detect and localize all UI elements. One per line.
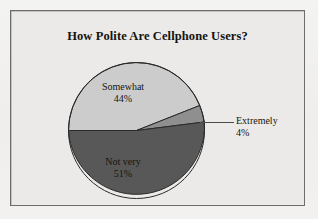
pie-label-somewhat-value: 44% [81,93,165,105]
pie-label-notvery-name: Not very [83,156,163,168]
pie-label-notvery: Not very 51% [83,156,163,180]
chart-image: How Polite Are Cellphone Users? Somewhat… [0,0,318,219]
pie-label-notvery-value: 51% [83,168,163,180]
pie-label-leader-line [200,122,234,123]
pie-label-extremely-name: Extremely [236,115,310,127]
pie-label-extremely-value: 4% [236,127,310,139]
chart-title: How Polite Are Cellphone Users? [11,29,304,44]
pie-label-extremely: Extremely 4% [236,115,310,139]
chart-frame: How Polite Are Cellphone Users? Somewhat… [10,10,305,206]
pie-label-somewhat: Somewhat 44% [81,81,165,105]
pie-label-somewhat-name: Somewhat [81,81,165,93]
